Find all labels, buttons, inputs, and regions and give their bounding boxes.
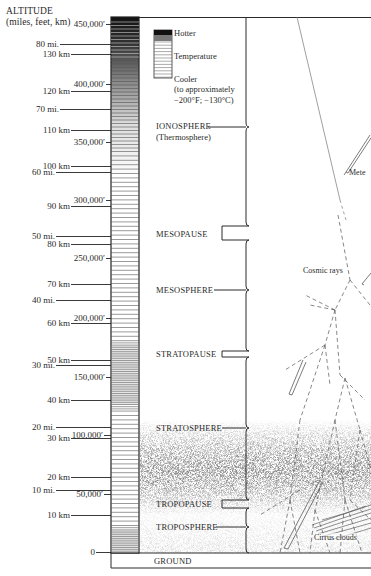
region-label-thermosphere: (Thermosphere): [156, 132, 211, 142]
region-label-tropopause: TROPOPAUSE: [156, 499, 212, 509]
legend-swatch: [154, 30, 172, 78]
region-label-mesopause: MESOPAUSE: [156, 229, 208, 239]
legend-note-line2: −200°F; −130°C): [174, 95, 234, 105]
temperature-bar: [111, 17, 139, 553]
meteors-label: Mete: [349, 168, 365, 177]
region-label-mesosphere: MESOSPHERE: [156, 285, 213, 295]
legend-note-line1: (to approximately: [174, 84, 235, 94]
legend-temperature: Temperature: [174, 51, 217, 61]
cirrus-clouds-label: Cirrus clouds: [314, 533, 357, 542]
region-label-ionosphere: IONOSPHERE: [156, 121, 211, 131]
legend-cooler: Cooler: [174, 74, 197, 84]
region-label-stratopause: STRATOPAUSE: [156, 349, 216, 359]
region-label-troposphere: TROPOSPHERE: [156, 522, 218, 532]
meteor-trail-line: [297, 17, 346, 220]
region-label-stratosphere: STRATOSPHERE: [156, 423, 222, 433]
cosmic-rays-label: Cosmic rays: [303, 266, 343, 275]
legend-hotter: Hotter: [174, 28, 196, 38]
ground-label: GROUND: [154, 556, 192, 566]
